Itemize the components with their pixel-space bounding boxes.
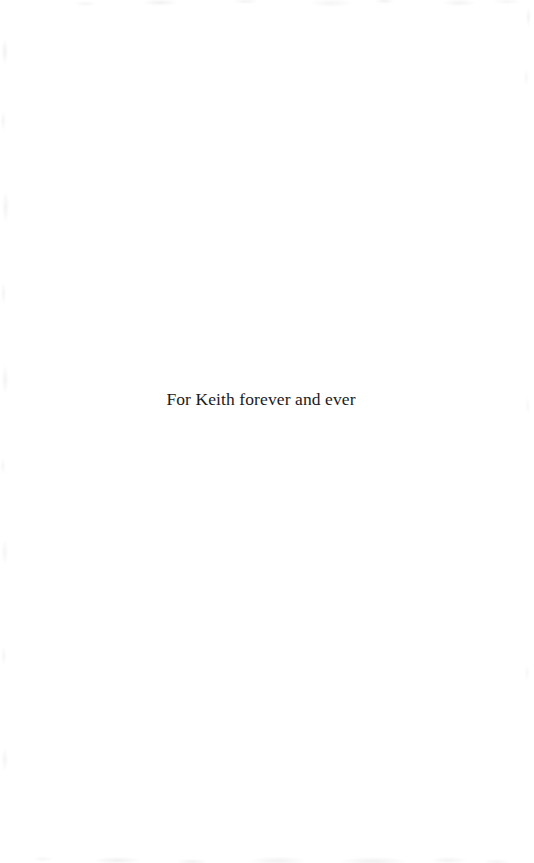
scan-artifact-left-edge: [0, 0, 16, 863]
dedication-text: For Keith forever and ever: [0, 388, 522, 410]
scan-artifact-bottom-edge: [0, 841, 534, 863]
scanned-book-page: For Keith forever and ever: [0, 0, 534, 863]
scan-artifact-right-edge: [520, 0, 534, 863]
scan-artifact-top-edge: [0, 0, 534, 14]
